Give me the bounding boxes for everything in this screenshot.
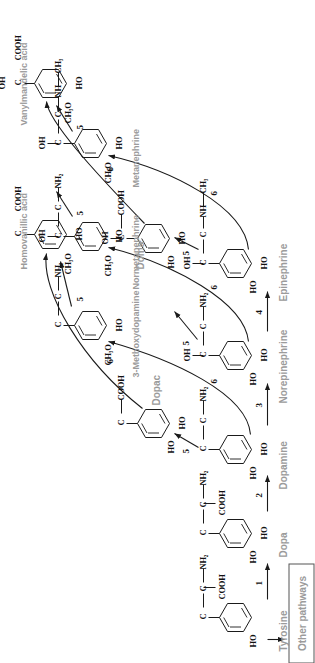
- compound-label-metanephrine: Metanephrine: [131, 128, 141, 187]
- atom-norepinephrine-ho-1: HO: [248, 372, 258, 385]
- atom-norepinephrine-c2: C: [198, 323, 208, 329]
- enzyme-number-6-epi-meta: 6: [209, 191, 219, 196]
- atom-epinephrine-oh: OH: [182, 256, 192, 269]
- compound-label-dopa: Dopa: [278, 532, 289, 557]
- atom-doma-cooh: COOH: [116, 190, 126, 215]
- enzyme-number-6-dopamine-methoxydopamine: 6: [209, 379, 219, 384]
- enzyme-number-6-doma-vma: 6: [105, 167, 115, 172]
- atom-epinephrine-c1: C: [198, 259, 208, 265]
- atom-norepinephrine-c1: C: [198, 351, 208, 357]
- atom-normetanephrine-nh2: NH₂: [53, 173, 63, 188]
- atom-dopa-c2: C: [198, 501, 208, 507]
- atom-vanylmandelic-ch3o: CH₃O: [63, 102, 73, 123]
- enzyme-number-3: 3: [254, 403, 264, 408]
- atom-methoxydopamine-nh2: NH₂: [53, 262, 63, 277]
- atom-doma-oh: OH: [100, 231, 110, 244]
- atom-vanylmandelic-ho: HO: [74, 76, 84, 89]
- atom-dopamine-ho-1: HO: [248, 466, 258, 479]
- atom-dopac-ho-1: HO: [166, 440, 176, 453]
- atom-tyrosine-cooh: COOH: [217, 574, 227, 599]
- compound-label-tyrosine: Tyrosine: [278, 610, 289, 651]
- atom-methoxydopamine-ho: HO: [114, 318, 124, 331]
- atom-normetanephrine-c1: C: [53, 232, 63, 238]
- enzyme-number-6-dopac-hva: 6: [105, 359, 115, 364]
- atom-methoxydopamine-c1: C: [53, 321, 63, 327]
- enzyme-number-1: 1: [254, 581, 264, 586]
- atom-metanephrine-ch3: CH₃: [53, 58, 63, 73]
- atom-tyrosine-c2: C: [198, 585, 208, 591]
- atom-metanephrine-nh: NH: [53, 85, 63, 97]
- atom-normetanephrine-c2: C: [53, 204, 63, 210]
- enzyme-number-4: 4: [254, 310, 264, 315]
- atom-vanylmandelic-oh: OH: [0, 76, 7, 89]
- atom-epinephrine-ho-2: HO: [259, 256, 269, 269]
- enzyme-number-5-methoxydopamine-hva: 5: [75, 297, 85, 302]
- atom-dopamine-c2: C: [198, 417, 208, 423]
- atom-norepinephrine-oh: OH: [182, 348, 192, 361]
- atom-norepinephrine-nh2: NH₂: [198, 292, 208, 307]
- figure-stage: HO C C NH₂ COOH HO HO C C NH₂ COOH HO HO…: [23, 0, 298, 661]
- atom-dopa-nh2: NH₂: [198, 470, 208, 485]
- atom-metanephrine-oh: OH: [37, 136, 47, 149]
- atom-metanephrine-ch3o: CH₃O: [103, 162, 113, 183]
- atom-epinephrine-ch3: CH₃: [198, 178, 208, 193]
- compound-label-norepinephrine: Norepinephrine: [278, 329, 289, 403]
- atom-homovanillic-ch3o: CH₃O: [63, 253, 73, 274]
- atom-dopac-ho-2: HO: [177, 416, 187, 429]
- atom-normetanephrine-oh: OH: [37, 229, 47, 242]
- atom-metanephrine-ho: HO: [114, 136, 124, 149]
- compound-label-normetanephrine: Normetanephrine: [131, 214, 141, 289]
- atom-dopa-cooh: COOH: [217, 490, 227, 515]
- enzyme-number-5-epinephrine-doma: 5: [181, 251, 191, 256]
- atom-dopamine-nh2: NH₂: [198, 386, 208, 401]
- atom-norepinephrine-ho-2: HO: [259, 348, 269, 361]
- compound-label-homovanillic-acid: Homovanillic acid: [19, 192, 29, 269]
- atom-dopa-c1: C: [198, 529, 208, 535]
- compound-label-methoxydopamine: 3-Methoxydopamine: [131, 290, 141, 377]
- compound-label-epinephrine: Epinephrine: [278, 243, 289, 301]
- atom-dopa-ho-1: HO: [248, 550, 258, 563]
- other-pathways-box[interactable]: Other pathways: [289, 563, 315, 663]
- atom-tyrosine-c1: C: [198, 613, 208, 619]
- atom-epinephrine-nh: NH: [198, 205, 208, 217]
- other-pathways-label: Other pathways: [296, 575, 307, 650]
- atom-dopac-cooh: COOH: [116, 375, 126, 400]
- enzyme-number-2: 2: [254, 493, 264, 498]
- atom-epinephrine-ho-1: HO: [248, 280, 258, 293]
- compound-label-dopamine: Dopamine: [278, 441, 289, 489]
- atom-doma-ho-1: HO: [166, 255, 176, 268]
- atom-metanephrine-c1: C: [53, 139, 63, 145]
- compound-label-dopac: Dopac: [151, 374, 162, 405]
- atom-homovanillic-ho: HO: [74, 227, 84, 240]
- atom-dopa-ho-2: HO: [259, 526, 269, 539]
- atom-dopamine-ho-2: HO: [259, 442, 269, 455]
- enzyme-number-5-norepinephrine-doma: 5: [181, 341, 191, 346]
- atom-dopac-c: C: [116, 419, 126, 425]
- enzyme-number-5-metanephrine-vma: 5: [75, 125, 85, 130]
- enzyme-number-5-dopamine-dopac: 5: [181, 449, 191, 454]
- atom-methoxydopamine-c2: C: [53, 293, 63, 299]
- compound-label-vanylmandelic-acid: Vanylmandelic acid: [19, 42, 29, 125]
- atom-metanephrine-c2: C: [53, 111, 63, 117]
- enzyme-number-5-normetanephrine-vma: 5: [75, 211, 85, 216]
- pathway-figure: HO C C NH₂ COOH HO HO C C NH₂ COOH HO HO…: [23, 0, 298, 661]
- atom-doma-ho-2: HO: [177, 231, 187, 244]
- atom-epinephrine-c2: C: [198, 231, 208, 237]
- atom-tyrosine-nh2: NH₂: [198, 554, 208, 569]
- atom-normetanephrine-ho: HO: [114, 229, 124, 242]
- atom-normetanephrine-ch3o: CH₃O: [103, 255, 113, 276]
- enzyme-number-6-norepi-normeta: 6: [209, 285, 219, 290]
- atom-tyrosine-ho: HO: [248, 634, 258, 647]
- atom-dopamine-c1: C: [198, 445, 208, 451]
